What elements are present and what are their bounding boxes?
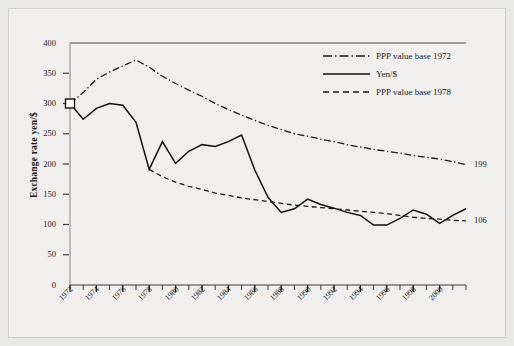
y-tick-label: 250	[30, 128, 56, 138]
y-tick-label: 300	[30, 98, 56, 108]
legend-label-yen: Yen/$	[376, 69, 397, 79]
legend-key-yen	[322, 69, 370, 79]
chart-legend: PPP value base 1972 Yen/$ PPP value base…	[322, 48, 492, 102]
legend-label-ppp-1978: PPP value base 1978	[376, 87, 451, 97]
series-end-label: 199	[474, 159, 487, 169]
y-tick-label: 350	[30, 68, 56, 78]
y-tick-label: 400	[30, 38, 56, 48]
y-tick-label: 50	[30, 249, 56, 259]
series-line	[70, 104, 466, 226]
y-tick-label: 0	[30, 280, 56, 290]
legend-item[interactable]: PPP value base 1978	[322, 84, 492, 100]
legend-item[interactable]: PPP value base 1972	[322, 48, 492, 64]
y-tick-label: 200	[30, 159, 56, 169]
y-tick-label: 100	[30, 219, 56, 229]
legend-item[interactable]: Yen/$	[322, 66, 492, 82]
chart-figure: Exchange rate yen/$ 05010015020025030035…	[0, 0, 514, 346]
series-end-label: 106	[474, 215, 487, 225]
series-line	[149, 169, 466, 220]
legend-key-ppp-1978	[322, 87, 370, 97]
legend-label-ppp-1972: PPP value base 1972	[376, 51, 451, 61]
series-start-marker	[66, 99, 75, 108]
y-tick-label: 150	[30, 189, 56, 199]
legend-key-ppp-1972	[322, 51, 370, 61]
